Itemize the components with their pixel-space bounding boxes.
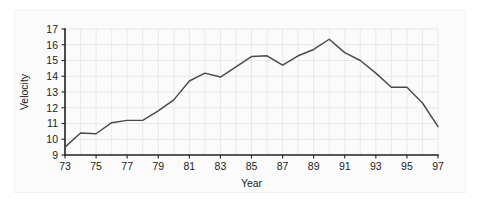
- chart-figure: 73757779818385878991939597 9101112131415…: [0, 0, 482, 210]
- x-tick-label: 83: [215, 160, 227, 172]
- x-tick-label: 97: [432, 160, 444, 172]
- x-tick-label: 91: [339, 160, 351, 172]
- x-tick-label: 95: [401, 160, 413, 172]
- y-tick-label: 17: [46, 23, 58, 35]
- y-tick-label: 12: [46, 102, 58, 114]
- x-tick-label: 87: [277, 160, 289, 172]
- y-tick-label: 9: [52, 149, 58, 161]
- x-tick-label: 73: [59, 160, 71, 172]
- x-tick-label: 75: [90, 160, 102, 172]
- y-tick-label: 15: [46, 54, 58, 66]
- y-tick-label: 14: [46, 70, 58, 82]
- x-tick-label: 79: [152, 160, 164, 172]
- y-tick-label: 11: [47, 117, 58, 129]
- x-tick-label: 81: [183, 160, 195, 172]
- x-tick-label: 77: [121, 160, 133, 172]
- x-tick-label: 93: [370, 160, 382, 172]
- y-axis-title: Velocity: [18, 73, 30, 110]
- x-tick-labels: 73757779818385878991939597: [59, 160, 444, 172]
- x-tick-label: 89: [308, 160, 320, 172]
- y-tick-labels: 91011121314151617: [46, 23, 58, 161]
- x-axis-title: Year: [241, 177, 263, 189]
- line-chart: 73757779818385878991939597 9101112131415…: [0, 0, 482, 210]
- y-tick-label: 13: [46, 86, 58, 98]
- y-tick-label: 16: [46, 39, 58, 51]
- x-tick-label: 85: [246, 160, 258, 172]
- y-tick-label: 10: [46, 133, 58, 145]
